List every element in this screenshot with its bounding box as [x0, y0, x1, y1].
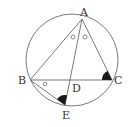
segment-AC	[82, 19, 112, 80]
point-label-D: D	[72, 82, 81, 95]
point-label-E: E	[62, 109, 70, 122]
angle-mark-BAD-icon	[71, 35, 75, 39]
angle-mark-ACB-icon	[102, 71, 112, 80]
geometry-diagram: A B C D E	[0, 0, 134, 127]
point-label-B: B	[18, 74, 26, 87]
point-label-A: A	[79, 6, 89, 19]
angle-mark-DBE-icon	[43, 82, 47, 86]
angle-mark-DAC-icon	[83, 35, 87, 39]
point-label-C: C	[114, 74, 122, 87]
segment-AB	[30, 19, 82, 80]
